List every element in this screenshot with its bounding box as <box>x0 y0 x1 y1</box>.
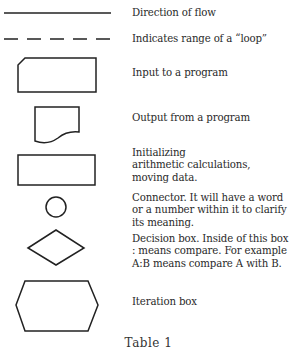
legend-text-connector: Connector. It will have a word or a numb… <box>132 192 287 229</box>
legend-line: Output from a program <box>132 112 250 124</box>
iteration-hexagon-icon <box>16 281 98 331</box>
legend-line: A:B means compare A with B. <box>132 258 288 270</box>
legend-text-iteration: Iteration box <box>132 296 197 308</box>
legend-line: Direction of flow <box>132 7 216 19</box>
connector-circle-icon <box>46 197 66 217</box>
output-shape-icon <box>35 107 79 143</box>
legend-line: Iteration box <box>132 296 197 308</box>
legend-line: its meaning. <box>132 217 287 229</box>
legend-text-decision: Decision box. Inside of this box : means… <box>132 233 288 270</box>
process-rectangle-icon <box>18 155 95 185</box>
legend-text-direction-of-flow: Direction of flow <box>132 7 216 19</box>
legend-line: moving data. <box>132 172 250 184</box>
legend-line: Input to a program <box>132 67 228 79</box>
legend-line: arithmetic calculations, <box>132 159 250 171</box>
legend-text-output: Output from a program <box>132 112 250 124</box>
legend-line: Connector. It will have a word <box>132 192 287 204</box>
legend-line: Initializing <box>132 147 250 159</box>
legend-text-input: Input to a program <box>132 67 228 79</box>
decision-diamond-icon <box>28 230 84 265</box>
flowchart-symbols <box>0 0 120 342</box>
legend-line: Decision box. Inside of this box <box>132 233 288 245</box>
legend-text-process: Initializing arithmetic calculations, mo… <box>132 147 250 184</box>
legend-line: : means compare. For example <box>132 245 288 257</box>
table-caption: Table 1 <box>0 336 297 350</box>
legend-line: Indicates range of a “loop” <box>132 33 267 45</box>
legend-text-loop-range: Indicates range of a “loop” <box>132 33 267 45</box>
legend-line: or a number within it to clarify <box>132 204 287 216</box>
input-shape-icon <box>18 58 96 92</box>
